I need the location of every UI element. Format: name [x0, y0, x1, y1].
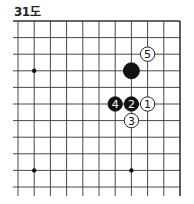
- stone-move-number: 2: [128, 98, 135, 111]
- go-board: 12345: [0, 0, 194, 204]
- stone-move-number: 5: [144, 48, 151, 61]
- stone-move-number: 3: [128, 115, 135, 128]
- stone-move-number: 1: [144, 98, 151, 111]
- board-grid: [13, 21, 180, 196]
- star-point: [32, 69, 36, 73]
- stone-circle: [123, 63, 139, 79]
- stone-move-number: 4: [112, 98, 119, 111]
- stone-white-1: 1: [140, 97, 154, 111]
- stone-black: [123, 63, 139, 79]
- star-point: [129, 168, 133, 172]
- stone-black-4: 4: [108, 97, 122, 111]
- stone-black-2: 2: [124, 97, 138, 111]
- star-point: [32, 168, 36, 172]
- stone-white-3: 3: [124, 113, 138, 127]
- stone-white-5: 5: [140, 47, 154, 61]
